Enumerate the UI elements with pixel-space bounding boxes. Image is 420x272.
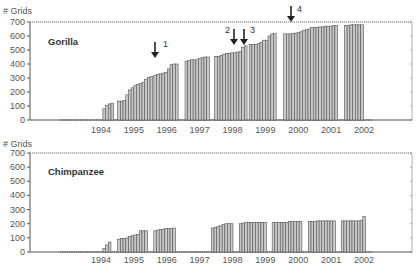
bar [292, 33, 295, 120]
arrow-down-icon [151, 52, 159, 58]
bar [319, 221, 322, 252]
bar [236, 52, 239, 120]
bar [154, 231, 157, 252]
bar [357, 221, 360, 252]
bar [327, 221, 330, 252]
x-tick-label: 1995 [124, 125, 144, 135]
bar [300, 32, 303, 120]
y-tick-label: 0 [20, 247, 25, 257]
bar [327, 26, 330, 120]
bar [361, 25, 364, 120]
bar [264, 222, 267, 252]
y-tick-label: 700 [10, 17, 25, 27]
bar [286, 34, 289, 120]
bar [324, 26, 327, 120]
bar [142, 231, 145, 252]
y-tick-label: 100 [10, 233, 25, 243]
bar [131, 236, 134, 252]
x-tick-label: 2002 [354, 255, 374, 265]
bar [358, 25, 361, 120]
bar [289, 34, 292, 120]
bar [147, 77, 150, 120]
bar [207, 57, 210, 120]
bar [103, 109, 106, 120]
x-tick-label: 1996 [157, 255, 177, 265]
bar [118, 239, 121, 252]
bar [199, 58, 202, 120]
bar [167, 229, 170, 252]
bar [363, 217, 366, 252]
annotation-arrow-2: 2 [225, 25, 238, 45]
y-tick-label: 0 [20, 115, 25, 125]
bar [106, 245, 109, 252]
annotation-arrow-1: 1 [151, 39, 168, 58]
x-tick-label: 1997 [190, 125, 210, 135]
y-tick-label: 500 [10, 45, 25, 55]
bar [123, 100, 126, 120]
bar [341, 221, 344, 252]
bar [273, 33, 276, 120]
bar [228, 224, 231, 252]
bar [316, 28, 319, 120]
bar [261, 222, 264, 252]
y-tick-label: 300 [10, 205, 25, 215]
x-tick-label: 2000 [288, 125, 308, 135]
bar [173, 228, 176, 252]
bar [352, 221, 355, 252]
bar [215, 56, 218, 120]
bar [134, 86, 137, 120]
bar [225, 54, 228, 121]
bar [275, 222, 278, 252]
bar [257, 44, 260, 120]
bar [303, 30, 306, 120]
bar [252, 44, 255, 120]
bar [296, 222, 299, 252]
bar [280, 222, 283, 252]
bar [103, 248, 106, 252]
bar [347, 26, 350, 121]
arrow-down-icon [230, 39, 238, 45]
bar [294, 222, 297, 252]
bar [360, 220, 363, 252]
bar [330, 221, 333, 252]
bar [201, 58, 204, 120]
panel-title: Gorilla [48, 36, 79, 47]
x-tick-label: 2001 [321, 255, 341, 265]
bar [308, 29, 311, 120]
bar [159, 74, 162, 120]
y-tick-label: 500 [10, 176, 25, 186]
bar [128, 236, 131, 252]
bar [239, 51, 242, 120]
y-tick-label: 300 [10, 73, 25, 83]
bar [284, 34, 287, 120]
y-axis-label: # Grids [3, 6, 33, 16]
bar [120, 101, 123, 120]
y-tick-label: 400 [10, 59, 25, 69]
bar [247, 222, 250, 252]
bar [126, 238, 129, 252]
bar [258, 222, 261, 252]
bar [165, 72, 168, 120]
x-tick-label: 2001 [321, 125, 341, 135]
bar [286, 222, 289, 252]
bar [344, 26, 347, 121]
panel-title: Chimpanzee [48, 166, 104, 177]
annotation-arrow-3: 3 [240, 25, 255, 45]
bar [299, 222, 302, 252]
bar [294, 33, 297, 120]
bar [263, 40, 266, 120]
bar [123, 239, 126, 252]
bar [355, 221, 358, 252]
x-tick-label: 1999 [255, 255, 275, 265]
bar [170, 65, 173, 120]
bar [228, 54, 231, 121]
arrow-down-icon [287, 16, 295, 22]
bar [305, 30, 308, 120]
bar [134, 235, 137, 252]
bar [349, 221, 352, 252]
bar [332, 26, 335, 121]
bar [278, 222, 281, 252]
x-tick-label: 2000 [288, 255, 308, 265]
x-tick-label: 1994 [91, 125, 111, 135]
bar [283, 222, 286, 252]
